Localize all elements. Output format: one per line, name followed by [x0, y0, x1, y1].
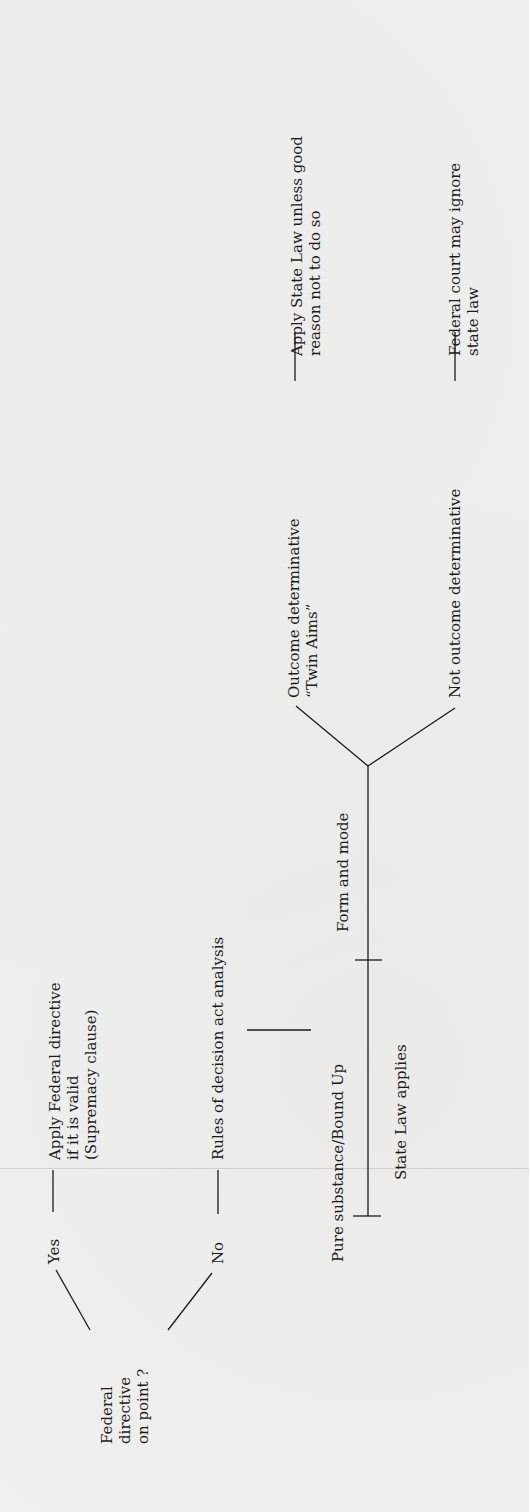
scanned-page: Federal directive on point ? Yes No Appl…: [0, 0, 529, 1512]
connector-form-not-outcome-det: [368, 708, 455, 766]
twin-aims-line: “Twin Aims”: [303, 518, 321, 698]
pure-substance-text: Pure substance/Bound Up: [329, 1064, 347, 1262]
spectrum-left-result-label: State Law applies: [392, 1044, 410, 1180]
no-outcome-label: Rules of decision act analysis: [209, 937, 227, 1160]
root-line-1: Federal: [98, 1369, 116, 1444]
connector-form-outcome-det: [296, 706, 368, 766]
yes-text: Yes: [45, 1239, 63, 1264]
spectrum-right-end-label: Form and mode: [334, 813, 352, 933]
connector-root-no: [168, 1273, 212, 1330]
yes-outcome-label: Apply Federal directive if it is valid (…: [46, 982, 100, 1160]
not-outcome-determinative-result-label: Federal court may ignore state law: [446, 163, 482, 356]
no-label: No: [209, 1242, 227, 1264]
spectrum-left-end-label: Pure substance/Bound Up: [329, 1064, 347, 1262]
no-text: No: [209, 1242, 227, 1264]
apply-state-law-line-1: Apply State Law unless good: [288, 136, 306, 356]
root-line-2: directive: [116, 1369, 134, 1444]
yes-outcome-line-1: Apply Federal directive: [46, 982, 64, 1160]
yes-outcome-line-2: if it is valid: [64, 982, 82, 1160]
connector-root-yes: [56, 1270, 90, 1330]
outcome-determinative-line-1: Outcome determinative: [285, 518, 303, 698]
outcome-determinative-result-label: Apply State Law unless good reason not t…: [288, 136, 324, 356]
federal-court-ignore-line-1: Federal court may ignore: [446, 163, 464, 356]
not-outcome-determinative-label: Not outcome determinative: [446, 489, 464, 698]
yes-outcome-line-3: (Supremacy clause): [82, 982, 100, 1160]
state-law-applies-text: State Law applies: [392, 1044, 410, 1180]
apply-state-law-line-2: reason not to do so: [306, 136, 324, 356]
form-and-mode-text: Form and mode: [334, 813, 352, 933]
no-outcome-line-1: Rules of decision act analysis: [209, 937, 227, 1160]
federal-court-ignore-line-2: state law: [464, 163, 482, 356]
root-line-3: on point ?: [134, 1369, 152, 1444]
outcome-determinative-label: Outcome determinative “Twin Aims”: [285, 518, 321, 698]
yes-label: Yes: [45, 1239, 63, 1264]
not-outcome-determinative-line-1: Not outcome determinative: [446, 489, 464, 698]
root-question-label: Federal directive on point ?: [98, 1369, 152, 1444]
